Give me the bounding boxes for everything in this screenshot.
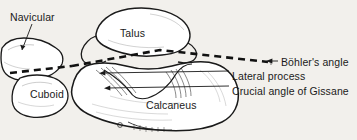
navicular-bone (1, 38, 63, 81)
callout-label-bohlers-angle: Böhler's angle (281, 57, 349, 68)
callout-label-lateral-process: Lateral process (232, 71, 305, 82)
bone-label-navicular: Navicular (10, 12, 55, 23)
bone-label-talus: Talus (120, 28, 145, 39)
bone-label-calcaneus: Calcaneus (146, 100, 197, 111)
bone-label-cuboid: Cuboid (30, 89, 64, 100)
callout-label-crucial-angle: Crucial angle of Gissane (232, 86, 349, 97)
anatomy-figure: Navicular Talus Cuboid Calcaneus Böhler'… (0, 0, 357, 140)
